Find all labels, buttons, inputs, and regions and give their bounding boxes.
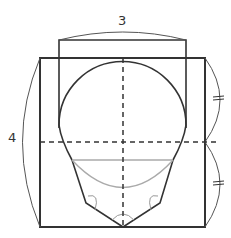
grey-arc (72, 160, 173, 188)
left-dimension-arc (23, 58, 41, 227)
equal-tick-lower-icon (213, 181, 224, 185)
top-dimension-label: 3 (118, 13, 126, 28)
geometry-diagram: 3 4 (0, 0, 231, 238)
top-dimension-arc (59, 32, 186, 40)
left-dimension-label: 4 (8, 130, 16, 145)
equal-tick-upper-icon (213, 96, 224, 100)
